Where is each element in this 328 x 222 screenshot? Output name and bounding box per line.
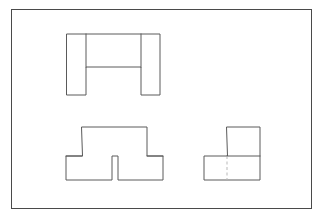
shape-bottom-right-l xyxy=(12,10,313,210)
figure-canvas xyxy=(0,0,328,222)
figure-border xyxy=(11,9,312,209)
shape-bottom-right-l-outline xyxy=(204,127,260,180)
